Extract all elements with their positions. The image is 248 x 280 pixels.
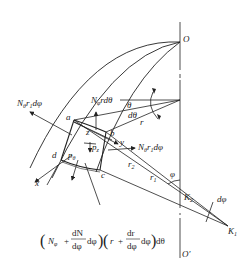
label-z: z (85, 127, 90, 137)
label-d: d (52, 150, 57, 160)
svg-text:dθ: dθ (156, 236, 165, 246)
label-O-prime: O′ (182, 249, 191, 259)
label-x: x (34, 178, 39, 188)
svg-text:dφ: dφ (72, 241, 82, 251)
label-dtheta: dθ (128, 110, 138, 120)
label-K2: K2 (183, 192, 193, 203)
svg-text:(: ( (103, 232, 108, 250)
meridional-force-formula: ( Nφ + dN dφ dφ ) ( r + dr dφ dφ ) dθ (40, 228, 165, 251)
label-phi: φ (170, 169, 175, 179)
label-theta: θ (127, 100, 132, 110)
label-N-theta-r1-dphi-left: Nθr1dφ (16, 98, 42, 109)
shell-element-diagram: O O′ a b c d x y z K2 K1 θ dθ r φ dφ r2 … (0, 0, 248, 280)
label-p-theta: pθ (67, 150, 76, 161)
svg-text:dφ: dφ (127, 241, 137, 251)
svg-text:+: + (118, 236, 123, 246)
label-p-z: pz (91, 142, 100, 153)
label-c: c (101, 170, 105, 180)
phi-arc (168, 180, 180, 184)
label-N-theta-r1-dphi-right: Nθr1dφ (137, 142, 163, 153)
label-N-phi-r-dtheta: Nφrdθ (90, 95, 113, 106)
svg-text:dφ: dφ (141, 236, 151, 246)
svg-text:r: r (110, 236, 114, 246)
label-O: O (183, 34, 190, 44)
svg-text:+: + (64, 236, 69, 246)
svg-text:dφ: dφ (87, 236, 97, 246)
svg-text:(: ( (40, 232, 45, 250)
label-y: y (119, 137, 124, 147)
svg-text:Nφ: Nφ (47, 236, 58, 247)
label-r1: r1 (150, 172, 157, 183)
label-a: a (66, 112, 71, 122)
label-b: b (110, 128, 115, 138)
label-K1: K1 (227, 226, 237, 237)
svg-text:dN: dN (72, 228, 84, 238)
label-dphi: dφ (217, 194, 227, 204)
svg-text:dr: dr (127, 228, 135, 238)
label-r: r (140, 117, 144, 127)
